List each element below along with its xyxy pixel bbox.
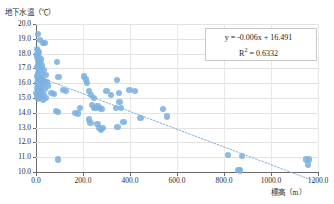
data-point [55, 109, 61, 115]
data-point [55, 74, 61, 80]
gridline-vertical [318, 24, 319, 172]
data-point [77, 105, 83, 111]
data-point [98, 106, 104, 112]
y-axis-tick-label: 16.0 [0, 78, 31, 87]
data-point [114, 124, 120, 130]
x-axis-title: 標高（m） [271, 186, 306, 197]
y-axis-title: 地下水温（℃） [5, 6, 55, 17]
y-axis-tick-label: 15.0 [0, 93, 31, 102]
data-point [137, 115, 143, 121]
x-axis-tick-label: 0.0 [31, 176, 40, 185]
data-point [108, 92, 114, 98]
trendline-equation-text: y = -0.006x + 16.491 [206, 31, 311, 44]
data-point [55, 156, 61, 162]
y-axis-tick-label: 14.0 [0, 108, 31, 117]
y-axis-tick-label: 12.0 [0, 137, 31, 146]
data-point [63, 88, 69, 94]
trendline-r2-text: R2 = 0.6332 [206, 44, 311, 60]
y-axis-tick-label: 13.0 [0, 123, 31, 132]
data-point [160, 106, 166, 112]
data-point [51, 91, 57, 97]
x-axis-tick-label: 600.0 [169, 176, 186, 185]
data-point [100, 125, 106, 131]
data-point [164, 113, 170, 119]
y-axis-tick-label: 18.0 [0, 49, 31, 58]
y-axis-tick-label: 19.0 [0, 34, 31, 43]
x-axis-tick [318, 172, 319, 176]
gridline-vertical [130, 24, 131, 172]
scatter-chart: 地下水温（℃） 標高（m） 10.011.012.013.014.015.016… [0, 0, 334, 204]
trendline-equation-box: y = -0.006x + 16.491 R2 = 0.6332 [205, 28, 317, 61]
y-axis-tick-label: 17.0 [0, 63, 31, 72]
x-axis-tick-label: 200.0 [75, 176, 92, 185]
gridline-vertical [177, 24, 178, 172]
data-point [40, 96, 46, 102]
x-axis-tick-label: 1000.0 [261, 176, 282, 185]
x-axis-tick-label: 800.0 [216, 176, 233, 185]
x-axis-tick-label: 400.0 [122, 176, 139, 185]
x-axis-tick-label: 1200.0 [308, 176, 329, 185]
data-point [239, 153, 245, 159]
data-point [87, 120, 93, 126]
y-axis-tick-label: 10.0 [0, 167, 31, 176]
data-point [116, 99, 122, 105]
data-point [132, 88, 138, 94]
data-point [116, 90, 122, 96]
x-axis-line [36, 172, 318, 173]
y-axis-tick-label: 20.0 [0, 19, 31, 28]
data-point [118, 105, 124, 111]
data-point [305, 162, 311, 168]
data-point [54, 59, 60, 65]
r2-superscript: 2 [244, 47, 247, 53]
data-point [120, 119, 126, 125]
data-point [75, 110, 81, 116]
data-point [41, 40, 47, 46]
data-point [91, 95, 97, 101]
data-point [237, 167, 243, 173]
gridline-vertical [83, 24, 84, 172]
y-axis-tick-label: 11.0 [0, 152, 31, 161]
r2-value: = 0.6332 [249, 49, 278, 58]
data-point [84, 80, 90, 86]
